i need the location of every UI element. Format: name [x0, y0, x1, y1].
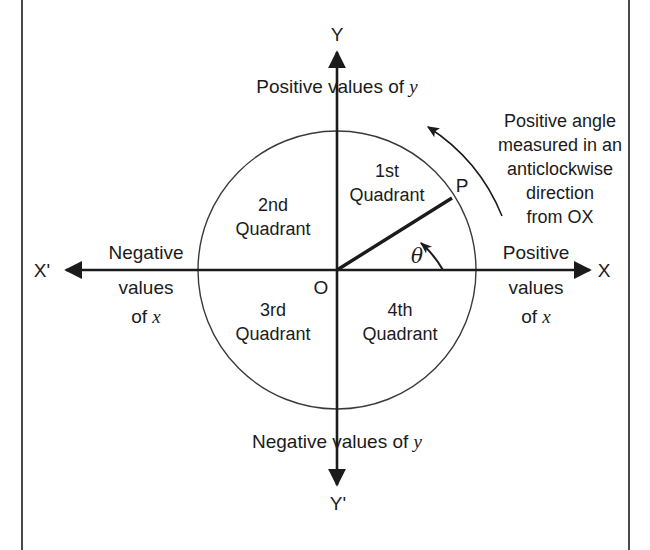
caption-negative-x-line3-text-variable: x [152, 306, 160, 327]
quadrant-label-fourth-line1: 4th [387, 299, 412, 322]
quadrant-label-third-line1: 3rd [260, 299, 286, 322]
caption-positive-x-line2: values [509, 278, 564, 297]
caption-negative-x-line3-text: of x [131, 306, 161, 327]
quadrant-label-fourth-line2: Quadrant [362, 323, 437, 346]
caption-negative-x-line1: Negative [109, 243, 184, 262]
axis-label-x-negative: X' [34, 261, 50, 280]
annotation-line-5: from OX [526, 206, 593, 230]
anticlockwise-direction-arc [428, 127, 502, 216]
quadrant-label-second-line1: 2nd [258, 194, 288, 217]
caption-negative-y: Negative values of y [252, 432, 422, 451]
caption-positive-x-line1: Positive [503, 243, 570, 262]
caption-positive-y-text: Positive values of y [256, 76, 418, 97]
annotation-line-4: direction [526, 182, 594, 206]
caption-negative-y-text-variable: y [414, 431, 422, 452]
axis-label-y-negative: Y' [330, 494, 346, 513]
theta-symbol-label: θ [411, 246, 423, 266]
annotation-line-2: measured in an [498, 134, 622, 158]
caption-positive-y-text-variable: y [409, 76, 417, 97]
axis-label-y-positive: Y [331, 25, 344, 44]
point-p-label: P [456, 176, 469, 195]
caption-negative-x-line2: values [119, 278, 174, 297]
caption-positive-y: Positive values of y [256, 77, 418, 96]
origin-label: O [314, 278, 329, 297]
caption-positive-x-line3-text-variable: x [542, 306, 550, 327]
quadrant-label-second-line2: Quadrant [235, 218, 310, 241]
annotation-line-1: Positive angle [504, 110, 616, 134]
annotation-line-3: anticlockwise [507, 158, 613, 182]
caption-negative-y-text: Negative values of y [252, 431, 422, 452]
quadrant-label-first-line1: 1st [375, 160, 399, 183]
axis-label-x-positive: X [598, 261, 611, 280]
quadrant-label-first-line2: Quadrant [349, 184, 424, 207]
caption-positive-x-line3: of x [521, 307, 551, 326]
caption-negative-x-line3: of x [131, 307, 161, 326]
caption-positive-x-line3-text: of x [521, 306, 551, 327]
diagram-canvas: X X' Y Y' O Positive values of y Negativ… [0, 0, 650, 550]
quadrant-label-third-line2: Quadrant [235, 323, 310, 346]
theta-angle-arc [421, 243, 443, 270]
